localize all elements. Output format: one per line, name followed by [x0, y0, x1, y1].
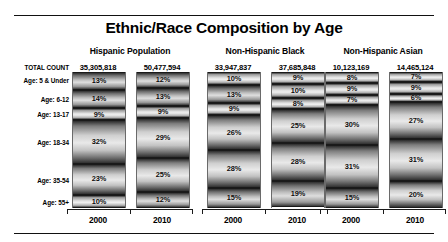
bar-segment[interactable]: 7% — [390, 72, 442, 82]
bar-segment[interactable]: 13% — [73, 72, 125, 90]
stacked-bar[interactable]: 7%9%6%27%31%20% — [389, 72, 443, 208]
segment-value-label: 7% — [347, 96, 357, 103]
segment-value-label: 20% — [409, 191, 424, 198]
bar-segment[interactable]: 12% — [137, 72, 189, 88]
segment-value-label: 14% — [92, 95, 107, 102]
bar-segment[interactable]: 10% — [272, 84, 324, 98]
segment-value-label: 30% — [345, 121, 360, 128]
segment-value-label: 8% — [347, 74, 357, 81]
year-axis-label: 2010 — [136, 215, 188, 225]
axis-tick — [383, 209, 384, 214]
bar-segment[interactable]: 9% — [326, 83, 378, 95]
bar-segment[interactable]: 8% — [326, 72, 378, 83]
segment-value-label: 32% — [92, 138, 107, 145]
stacked-bar[interactable]: 9%10%8%25%28%19% — [271, 72, 325, 208]
segment-value-label: 9% — [411, 84, 421, 91]
bar-segment[interactable]: 31% — [390, 139, 442, 181]
segment-value-label: 9% — [158, 108, 168, 115]
bar-segment[interactable]: 30% — [326, 105, 378, 146]
segment-value-label: 10% — [227, 75, 242, 82]
segment-value-label: 27% — [409, 117, 424, 124]
bar-segment[interactable]: 8% — [272, 98, 324, 109]
bar-segment[interactable]: 6% — [390, 94, 442, 102]
bar-segment[interactable]: 28% — [272, 143, 324, 181]
segment-value-label: 10% — [291, 87, 306, 94]
bar-segment[interactable]: 15% — [326, 188, 378, 208]
year-axis-label: 2000 — [325, 215, 377, 225]
bar-segment[interactable]: 9% — [390, 82, 442, 94]
segment-value-label: 23% — [92, 175, 107, 182]
segment-value-label: 19% — [291, 190, 306, 197]
bar-segment[interactable]: 32% — [73, 120, 125, 163]
stacked-bar[interactable]: 8%9%7%30%31%15% — [325, 72, 379, 208]
row-label-age-35-54: Age: 35-54 — [37, 177, 69, 184]
bar-segment[interactable]: 9% — [73, 108, 125, 120]
year-axis-label: 2000 — [207, 215, 259, 225]
bar-segment[interactable]: 25% — [272, 109, 324, 143]
bottom-divider — [14, 233, 434, 234]
bar-segment[interactable]: 10% — [208, 72, 260, 85]
bar-segment[interactable]: 23% — [73, 164, 125, 195]
year-axis-label: 2010 — [389, 215, 441, 225]
segment-value-label: 31% — [409, 156, 424, 163]
segment-value-label: 28% — [227, 165, 242, 172]
year-axis-label: 2000 — [72, 215, 124, 225]
row-label-age-6-12: Age: 6-12 — [41, 96, 69, 103]
bar-segment[interactable]: 9% — [208, 103, 260, 115]
bar-segment[interactable]: 28% — [208, 150, 260, 188]
segment-value-label: 6% — [411, 94, 421, 101]
bar-segment[interactable]: 9% — [137, 106, 189, 118]
segment-value-label: 10% — [92, 198, 107, 205]
bar-segment[interactable]: 10% — [73, 195, 125, 208]
year-axis-label: 2010 — [271, 215, 323, 225]
row-label-age-5-under: Age: 5 & Under — [24, 77, 69, 84]
row-label-age-18-34: Age: 18-34 — [37, 139, 69, 146]
bar-segment[interactable]: 29% — [137, 118, 189, 157]
segment-value-label: 29% — [156, 134, 171, 141]
stacked-bar[interactable]: 10%13%9%26%28%15% — [207, 72, 261, 208]
bar-segment[interactable]: 15% — [208, 188, 260, 208]
bar-segment[interactable]: 31% — [326, 145, 378, 187]
bar-segment[interactable]: 13% — [137, 88, 189, 106]
row-label-age-13-17: Age: 13-17 — [37, 111, 69, 118]
segment-value-label: 13% — [92, 77, 107, 84]
top-divider — [14, 15, 434, 16]
segment-value-label: 15% — [227, 194, 242, 201]
group-header-nonhispanic-asian: Non-Hispanic Asian — [303, 46, 448, 56]
bar-segment[interactable]: 19% — [272, 181, 324, 207]
bar-segment[interactable]: 27% — [390, 102, 442, 139]
bar-segment[interactable]: 12% — [137, 192, 189, 208]
segment-value-label: 15% — [345, 194, 360, 201]
segment-value-label: 9% — [347, 85, 357, 92]
chart-container: Ethnic/Race Composition by Age Hispanic … — [0, 0, 448, 242]
stacked-bar[interactable]: 13%14%9%32%23%10% — [72, 72, 126, 208]
segment-value-label: 28% — [291, 158, 306, 165]
bar-segment[interactable]: 9% — [272, 72, 324, 84]
segment-value-label: 9% — [293, 74, 303, 81]
row-label-age-55-plus: Age: 55+ — [43, 199, 69, 206]
bar-segment[interactable]: 14% — [73, 90, 125, 109]
segment-value-label: 13% — [227, 91, 242, 98]
axis-tick — [130, 209, 131, 214]
segment-value-label: 9% — [229, 105, 239, 112]
axis-tick — [265, 209, 266, 214]
segment-value-label: 7% — [411, 73, 421, 80]
segment-value-label: 9% — [94, 111, 104, 118]
bar-segment[interactable]: 7% — [326, 95, 378, 105]
bar-segment[interactable]: 20% — [390, 181, 442, 208]
bar-segment[interactable]: 25% — [137, 158, 189, 192]
bar-segment[interactable]: 13% — [208, 85, 260, 103]
segment-value-label: 13% — [156, 93, 171, 100]
page-title: Ethnic/Race Composition by Age — [0, 19, 448, 37]
segment-value-label: 12% — [156, 76, 171, 83]
segment-value-label: 12% — [156, 196, 171, 203]
segment-value-label: 8% — [293, 100, 303, 107]
total-count-value: 50,477,594 — [122, 63, 202, 72]
bar-segment[interactable]: 26% — [208, 115, 260, 150]
total-count-value: 14,465,124 — [375, 63, 448, 72]
segment-value-label: 26% — [227, 129, 242, 136]
segment-value-label: 31% — [345, 163, 360, 170]
segment-value-label: 25% — [291, 122, 306, 129]
stacked-bar[interactable]: 12%13%9%29%25%12% — [136, 72, 190, 208]
segment-value-label: 25% — [156, 171, 171, 178]
